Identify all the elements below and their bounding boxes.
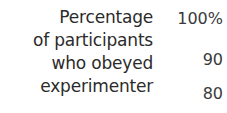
y-axis-title-line: of participants bbox=[0, 29, 153, 52]
y-axis-title: Percentage of participants who obeyed ex… bbox=[0, 6, 153, 98]
y-axis-title-line: Percentage bbox=[0, 6, 153, 29]
y-axis-tick-label: 100% bbox=[160, 9, 223, 28]
y-axis-tick-label-column: 100% 90 80 bbox=[160, 0, 223, 113]
y-axis-tick-label: 90 bbox=[160, 50, 223, 69]
chart-y-axis-region: Percentage of participants who obeyed ex… bbox=[0, 0, 227, 113]
y-axis-title-line: who obeyed bbox=[0, 52, 153, 75]
y-axis-title-line: experimenter bbox=[0, 75, 153, 98]
y-axis-tick-label: 80 bbox=[160, 84, 223, 103]
